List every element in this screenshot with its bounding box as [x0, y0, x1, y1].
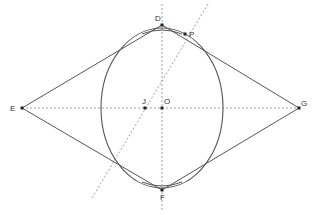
point-d — [161, 24, 164, 27]
point-p — [184, 33, 187, 36]
point-f — [161, 189, 164, 192]
label-o: O — [164, 97, 170, 106]
label-d: D — [155, 14, 161, 23]
point-j — [144, 107, 147, 110]
point-e — [21, 107, 24, 110]
label-f: F — [160, 193, 165, 202]
point-o — [161, 107, 164, 110]
label-p: P — [189, 30, 194, 39]
geometry-diagram: D P E J O G F — [0, 0, 316, 215]
label-e: E — [10, 104, 15, 113]
diagram-canvas: D P E J O G F — [0, 0, 316, 215]
label-g: G — [301, 99, 307, 108]
label-j: J — [142, 97, 146, 106]
